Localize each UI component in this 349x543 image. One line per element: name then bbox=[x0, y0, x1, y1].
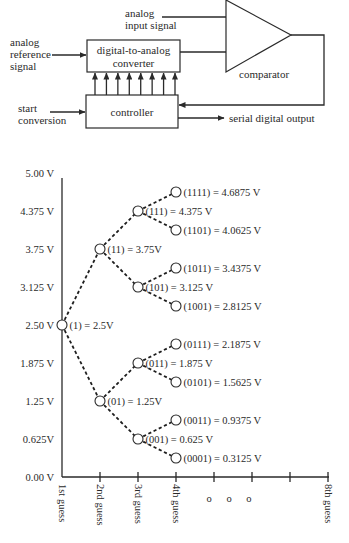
tree-node-label: (0011) = 0.9375 V bbox=[184, 415, 262, 427]
y-tick-label: 3.125 V bbox=[20, 282, 54, 293]
tree-node bbox=[95, 244, 105, 254]
tree-node-label: (1) = 2.5V bbox=[70, 320, 115, 332]
tree-node bbox=[171, 187, 181, 197]
tree-node-label: (011) = 1.875 V bbox=[146, 358, 214, 370]
search-tree-chart: 5.00 V4.375 V3.75 V3.125 V2.50 V1.875 V1… bbox=[20, 168, 333, 526]
analog-reference-label-line1: analog bbox=[10, 36, 40, 48]
y-tick-label: 2.50 V bbox=[26, 320, 55, 331]
tree-edge bbox=[100, 401, 138, 439]
ellipsis-label: o o o bbox=[207, 493, 258, 504]
y-tick-label: 0.625V bbox=[23, 434, 55, 445]
tree-node-label: (001) = 0.625 V bbox=[146, 434, 214, 446]
tree-node-label: (101) = 3.125 V bbox=[146, 282, 214, 294]
y-tick-label: 5.00 V bbox=[26, 168, 55, 179]
dac-label-line2: converter bbox=[113, 57, 155, 69]
x-axis-ticks: 1st guess2nd guess3rd guess4th guess8th … bbox=[57, 472, 334, 526]
dac-label-line1: digital-to-analog bbox=[97, 44, 171, 56]
tree-node bbox=[171, 263, 181, 273]
start-conversion-label-line2: conversion bbox=[18, 114, 67, 126]
tree-node bbox=[171, 453, 181, 463]
tree-node bbox=[57, 320, 67, 330]
x-tick-label: 8th guess bbox=[323, 484, 334, 523]
y-tick-label: 4.375 V bbox=[20, 206, 54, 217]
comparator-label: comparator bbox=[239, 68, 289, 80]
tree-node-label: (01) = 1.25V bbox=[108, 396, 163, 408]
tree-node-label: (1101) = 4.0625 V bbox=[184, 225, 262, 237]
serial-output-label: serial digital output bbox=[229, 112, 315, 124]
tree-node bbox=[133, 206, 143, 216]
analog-input-label-line2: input signal bbox=[125, 19, 177, 31]
controller-to-dac-bus bbox=[95, 73, 175, 95]
y-tick-label: 0.00 V bbox=[26, 472, 55, 483]
tree-edge bbox=[62, 249, 100, 325]
x-tick-label: 3rd guess bbox=[133, 484, 144, 524]
y-tick-label: 1.875 V bbox=[20, 358, 54, 369]
x-tick-label: 4th guess bbox=[171, 484, 182, 523]
tree-node-label: (0111) = 2.1875 V bbox=[184, 339, 262, 351]
y-tick-label: 1.25 V bbox=[26, 396, 55, 407]
comparator-symbol bbox=[226, 0, 291, 72]
tree-node bbox=[171, 377, 181, 387]
tree-node-label: (0101) = 1.5625 V bbox=[184, 377, 262, 389]
tree-node bbox=[133, 282, 143, 292]
tree-node bbox=[133, 358, 143, 368]
tree-nodes: (1) = 2.5V(11) = 3.75V(01) = 1.25V(111) … bbox=[57, 187, 262, 465]
tree-edge bbox=[62, 325, 100, 401]
x-tick-label: 1st guess bbox=[57, 484, 68, 522]
controller-label: controller bbox=[111, 106, 154, 118]
tree-node bbox=[171, 301, 181, 311]
tree-node-label: (111) = 4.375 V bbox=[146, 206, 213, 218]
tree-node-label: (0001) = 0.3125 V bbox=[184, 453, 262, 465]
tree-node-label: (1011) = 3.4375 V bbox=[184, 263, 262, 275]
analog-reference-label-line2: reference bbox=[10, 48, 51, 60]
block-diagram: analog input signal comparator digital-t… bbox=[10, 0, 324, 128]
tree-node bbox=[171, 225, 181, 235]
tree-node bbox=[171, 339, 181, 349]
tree-node-label: (1111) = 4.6875 V bbox=[184, 187, 261, 199]
x-tick-label: 2nd guess bbox=[95, 484, 106, 526]
analog-reference-label-line3: signal bbox=[10, 60, 36, 72]
tree-node bbox=[95, 396, 105, 406]
sar-adc-figure: analog input signal comparator digital-t… bbox=[0, 0, 349, 543]
tree-node bbox=[171, 415, 181, 425]
start-conversion-label-line1: start bbox=[18, 102, 37, 114]
tree-node bbox=[133, 434, 143, 444]
y-axis-ticks: 5.00 V4.375 V3.75 V3.125 V2.50 V1.875 V1… bbox=[20, 168, 54, 483]
tree-node-label: (11) = 3.75V bbox=[108, 244, 163, 256]
tree-node-label: (1001) = 2.8125 V bbox=[184, 301, 262, 313]
tree-edge bbox=[100, 249, 138, 287]
analog-input-label-line1: analog bbox=[125, 7, 155, 19]
y-tick-label: 3.75 V bbox=[26, 244, 55, 255]
